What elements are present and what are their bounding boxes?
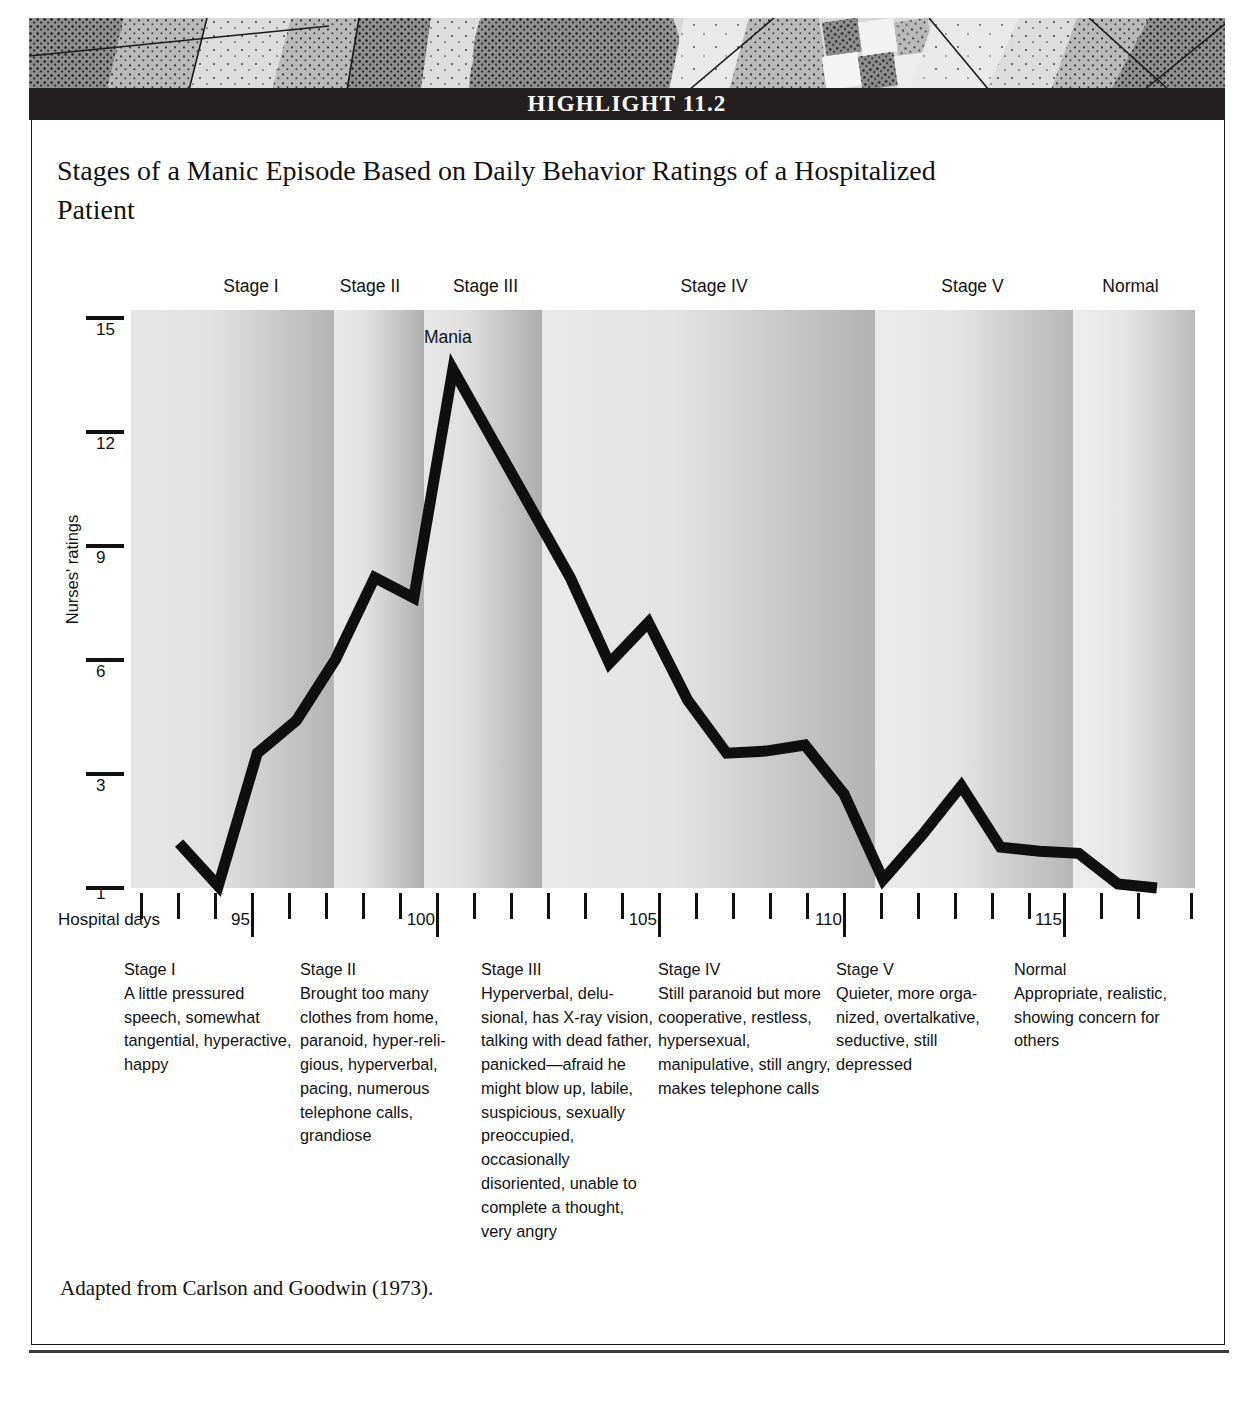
description-body: Quieter, more orga­nized, overtalkative,… [836,982,1014,1077]
description-stage-4: Stage IV Still paranoid but more coopera… [658,958,836,1101]
description-heading: Normal [1014,958,1194,982]
page-title: Stages of a Manic Episode Based on Daily… [57,152,1017,229]
figure-page: HIGHLIGHT 11.2 Stages of a Manic Episode… [0,0,1252,1406]
description-stage-5: Stage V Quieter, more orga­nized, overta… [836,958,1014,1077]
description-heading: Stage III [481,958,653,982]
description-heading: Stage V [836,958,1014,982]
highlight-bar: HIGHLIGHT 11.2 [29,88,1225,120]
description-stage-2: Stage II Brought too many clothes from h… [300,958,478,1148]
description-normal: Normal Appropriate, realis­tic, showing … [1014,958,1194,1053]
highlight-label: HIGHLIGHT 11.2 [29,88,1225,120]
description-stage-3: Stage III Hyperverbal, delu­sional, has … [481,958,653,1243]
source-note: Adapted from Carlson and Goodwin (1973). [60,1276,433,1301]
description-heading: Stage I [124,958,296,982]
decorative-header-pattern [29,18,1225,90]
description-body: Hyperverbal, delu­sional, has X-ray visi… [481,982,653,1244]
description-body: A little pressured speech, somewhat tang… [124,982,296,1077]
description-heading: Stage IV [658,958,836,982]
description-body: Still paranoid but more cooperative, res… [658,982,836,1101]
description-heading: Stage II [300,958,478,982]
description-body: Brought too many clothes from home, para… [300,982,478,1148]
description-body: Appropriate, realis­tic, showing concern… [1014,982,1194,1053]
description-stage-1: Stage I A little pressured speech, somew… [124,958,296,1077]
bottom-rule [29,1350,1229,1353]
